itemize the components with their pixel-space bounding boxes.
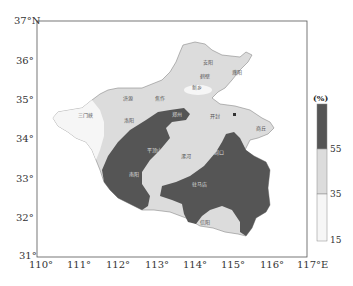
precipitation-map: 37°N 36° 35° 34° 33° 32° 31° 110° 111° 1… [0, 0, 353, 286]
city-pingdingshan: 平顶山 [147, 146, 162, 153]
map-svg [0, 0, 353, 286]
legend-label-15: 15 [330, 235, 341, 245]
y-tick-37: 37°N [14, 15, 40, 26]
legend-title: (%) [313, 93, 328, 103]
city-hebi: 鹤壁 [200, 72, 210, 79]
x-tick-117: 117°E [297, 259, 328, 270]
x-tick-115: 115° [221, 259, 245, 270]
x-tick-110: 110° [29, 259, 53, 270]
x-tick-116: 116° [260, 259, 284, 270]
y-tick-34: 34° [16, 133, 34, 144]
city-xinyang: 信阳 [200, 218, 210, 225]
legend-mid [317, 149, 327, 194]
station-marker [233, 113, 236, 116]
city-shangqiu: 商丘 [256, 124, 266, 131]
city-xinxiang: 新乡 [192, 83, 202, 90]
legend-low [317, 194, 327, 241]
city-zhengzhou: 郑州 [172, 110, 182, 117]
x-tick-111: 111° [67, 259, 91, 270]
city-sanmenxia: 三门峡 [78, 111, 93, 118]
city-xuchang: 许昌 [174, 135, 184, 142]
x-tick-114: 114° [183, 259, 207, 270]
city-zhoukou: 周口 [214, 148, 224, 155]
y-tick-35: 35° [16, 94, 34, 105]
legend-label-55: 55 [330, 144, 341, 154]
city-kaifeng: 开封 [210, 112, 220, 119]
legend-label-35: 35 [330, 189, 341, 199]
city-nanyang: 南阳 [129, 170, 139, 177]
city-jiyuan: 济源 [123, 94, 133, 101]
x-tick-113: 113° [145, 259, 169, 270]
legend-high [317, 104, 327, 149]
y-tick-33: 33° [16, 173, 34, 184]
city-luohe: 漯河 [181, 152, 191, 159]
city-jiaozuo: 焦作 [155, 94, 165, 101]
city-anyang: 安阳 [203, 58, 213, 65]
y-tick-36: 36° [16, 55, 34, 66]
x-tick-112: 112° [106, 259, 130, 270]
city-luoyang: 洛阳 [124, 116, 134, 123]
city-puyang: 濮阳 [232, 68, 242, 75]
city-zhumadian: 驻马店 [192, 180, 207, 187]
y-tick-32: 32° [16, 212, 34, 223]
